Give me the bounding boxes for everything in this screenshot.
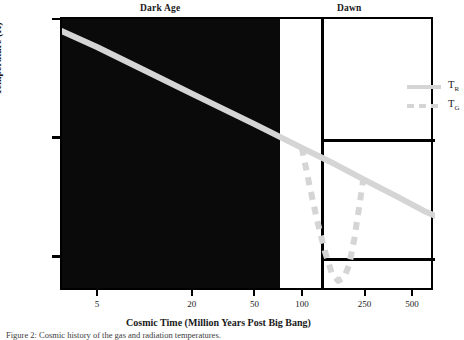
plot-area: 103102101 52050100250500 TRTG xyxy=(60,17,433,290)
x-tick-label: 50 xyxy=(250,299,259,309)
x-tick-mark xyxy=(364,288,366,296)
data-curves xyxy=(62,19,435,292)
x-tick-mark xyxy=(191,288,193,296)
x-tick-label: 20 xyxy=(187,299,196,309)
legend-label: TR xyxy=(448,79,459,93)
legend-item-t-g: TG xyxy=(407,96,464,115)
legend-label: TG xyxy=(448,98,459,112)
legend-swatch-dashed-icon xyxy=(407,104,441,108)
y-tick-mark xyxy=(52,255,62,258)
x-tick-label: 500 xyxy=(405,299,419,309)
x-axis-title: Cosmic Time (Million Years Post Big Bang… xyxy=(0,317,437,328)
x-tick-label: 250 xyxy=(358,299,372,309)
y-tick-mark xyxy=(52,18,62,21)
curve-t-g xyxy=(302,148,363,281)
x-tick-mark xyxy=(301,288,303,296)
x-tick-label: 100 xyxy=(295,299,309,309)
legend-swatch-solid-icon xyxy=(407,85,441,89)
section-label-dark-age: Dark Age xyxy=(140,3,180,13)
x-tick-mark xyxy=(253,288,255,296)
y-axis-title: Temperature (K) xyxy=(0,23,3,96)
x-tick-label: 5 xyxy=(95,299,100,309)
section-label-dawn: Dawn xyxy=(337,3,362,13)
legend: TRTG xyxy=(407,77,464,115)
x-tick-mark xyxy=(411,288,413,296)
legend-item-t-r: TR xyxy=(407,77,464,96)
x-tick-mark xyxy=(96,288,98,296)
y-tick-mark xyxy=(52,136,62,139)
figure-caption: Figure 2: Cosmic history of the gas and … xyxy=(6,330,431,340)
curve-t-r xyxy=(62,31,435,216)
